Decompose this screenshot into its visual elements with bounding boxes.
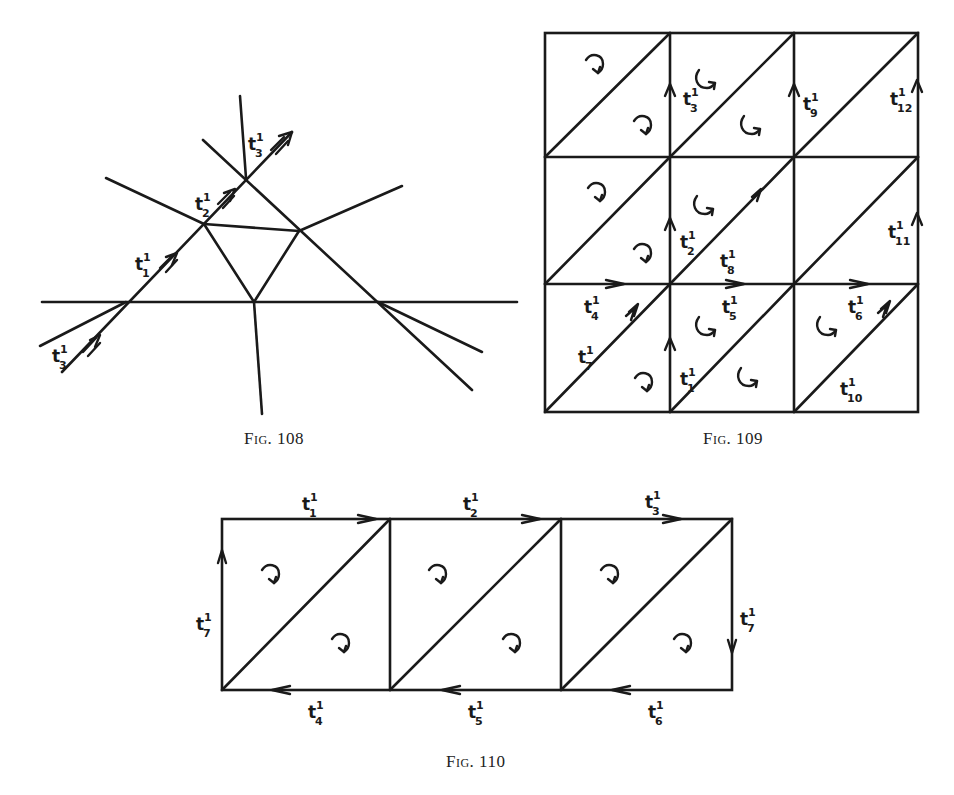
- svg-text:3: 3: [652, 505, 660, 518]
- edge-label: t14: [308, 699, 324, 728]
- svg-text:11: 11: [895, 235, 910, 248]
- rotation-ccw-icon: [694, 196, 713, 215]
- rotation-cw-icon: [262, 565, 279, 583]
- edge-label: t11: [302, 491, 318, 520]
- rotation-cw-icon: [634, 244, 651, 262]
- svg-text:3: 3: [255, 147, 263, 160]
- svg-text:1: 1: [203, 191, 211, 204]
- edge-label: t17: [578, 344, 594, 373]
- svg-text:1: 1: [656, 699, 664, 712]
- svg-text:1: 1: [316, 699, 324, 712]
- svg-text:1: 1: [691, 86, 699, 99]
- svg-text:1: 1: [60, 343, 68, 356]
- svg-text:7: 7: [585, 360, 593, 373]
- svg-text:5: 5: [729, 310, 737, 323]
- svg-text:1: 1: [310, 491, 318, 504]
- svg-text:1: 1: [476, 699, 484, 712]
- svg-text:1: 1: [848, 376, 856, 389]
- edge-label: t13: [645, 489, 661, 518]
- edge-label: t11: [680, 366, 696, 395]
- svg-text:1: 1: [688, 229, 696, 242]
- svg-text:2: 2: [202, 207, 210, 220]
- caption-fig-109: Fig. 109: [703, 429, 763, 449]
- figure-108: [40, 96, 517, 414]
- edge-label: t13: [52, 343, 68, 372]
- svg-text:1: 1: [748, 606, 756, 619]
- svg-text:9: 9: [810, 107, 818, 120]
- svg-text:3: 3: [690, 102, 698, 115]
- rotation-cw-icon: [601, 565, 618, 583]
- edge-label: t13: [683, 86, 699, 115]
- rotation-cw-icon: [586, 55, 603, 73]
- svg-text:3: 3: [59, 359, 67, 372]
- svg-text:1: 1: [811, 91, 819, 104]
- svg-text:2: 2: [687, 245, 695, 258]
- edge-label: t18: [720, 248, 736, 277]
- edge-label: t11: [135, 251, 151, 280]
- svg-text:1: 1: [898, 86, 906, 99]
- edge-label: t12: [463, 491, 479, 520]
- figure-110: [218, 515, 736, 694]
- rotation-cw-icon: [588, 183, 605, 201]
- svg-text:5: 5: [475, 715, 483, 728]
- edge-label: t17: [740, 606, 756, 635]
- edge-label: t15: [722, 294, 738, 323]
- rotation-cw-icon: [634, 116, 651, 134]
- caption-fig-108: Fig. 108: [244, 429, 304, 449]
- rotation-ccw-icon: [696, 70, 715, 89]
- rotation-ccw-icon: [817, 317, 836, 336]
- double-arrow-icon: [83, 335, 100, 356]
- svg-text:1: 1: [688, 366, 696, 379]
- svg-text:1: 1: [730, 294, 738, 307]
- rotation-cw-icon: [503, 634, 520, 652]
- rotation-ccw-icon: [738, 368, 757, 387]
- svg-text:7: 7: [747, 622, 755, 635]
- edge-label: t16: [848, 294, 864, 323]
- edge-label: t110: [840, 376, 863, 405]
- svg-text:7: 7: [203, 627, 211, 640]
- figures-canvas: t13t12t11t13t13t19t112t12t18t111t14t15t1…: [0, 0, 954, 795]
- svg-text:1: 1: [592, 294, 600, 307]
- edge-label: t12: [195, 191, 211, 220]
- svg-text:4: 4: [315, 715, 323, 728]
- edge-label: t17: [196, 611, 212, 640]
- svg-text:1: 1: [586, 344, 594, 357]
- svg-text:6: 6: [655, 715, 663, 728]
- figure-109: [545, 33, 922, 412]
- edge-labels: t13t12t11t13t13t19t112t12t18t111t14t15t1…: [52, 86, 912, 728]
- rotation-cw-icon: [635, 373, 652, 391]
- svg-text:1: 1: [728, 248, 736, 261]
- edge-label: t111: [888, 219, 910, 248]
- svg-text:4: 4: [591, 310, 599, 323]
- edge-label: t13: [248, 131, 264, 160]
- svg-text:1: 1: [143, 251, 151, 264]
- edge-label: t112: [890, 86, 912, 115]
- edge-label: t19: [803, 91, 819, 120]
- svg-text:1: 1: [856, 294, 864, 307]
- edge-label: t12: [680, 229, 696, 258]
- rotation-ccw-icon: [741, 116, 760, 135]
- svg-text:1: 1: [256, 131, 264, 144]
- edge-label: t14: [584, 294, 600, 323]
- svg-text:1: 1: [653, 489, 661, 502]
- caption-fig-110: Fig. 110: [446, 752, 506, 772]
- rotation-cw-icon: [332, 634, 349, 652]
- svg-text:1: 1: [896, 219, 904, 232]
- svg-text:8: 8: [727, 264, 735, 277]
- svg-text:1: 1: [309, 507, 317, 520]
- svg-text:12: 12: [897, 102, 912, 115]
- svg-text:2: 2: [470, 507, 478, 520]
- svg-text:1: 1: [142, 267, 150, 280]
- rotation-cw-icon: [429, 565, 446, 583]
- svg-text:1: 1: [471, 491, 479, 504]
- svg-text:1: 1: [204, 611, 212, 624]
- svg-text:6: 6: [855, 310, 863, 323]
- svg-text:1: 1: [687, 382, 695, 395]
- edge-label: t16: [648, 699, 664, 728]
- rotation-cw-icon: [674, 634, 691, 652]
- edge-label: t15: [468, 699, 484, 728]
- rotation-ccw-icon: [696, 317, 715, 336]
- svg-text:10: 10: [847, 392, 863, 405]
